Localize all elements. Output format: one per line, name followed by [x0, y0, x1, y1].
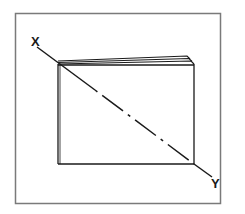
axis-label-x: X: [31, 34, 40, 49]
axis-line-solid-start: [37, 47, 95, 90]
outer-frame: [16, 14, 221, 204]
axis-label-y: Y: [211, 176, 220, 191]
axis-line-dash-dot: [95, 90, 194, 164]
axis-line-solid-end: [194, 164, 212, 177]
diagram-canvas: X Y: [0, 0, 245, 214]
stacked-sheets: [58, 56, 194, 64]
diagram-svg: X Y: [0, 0, 245, 214]
